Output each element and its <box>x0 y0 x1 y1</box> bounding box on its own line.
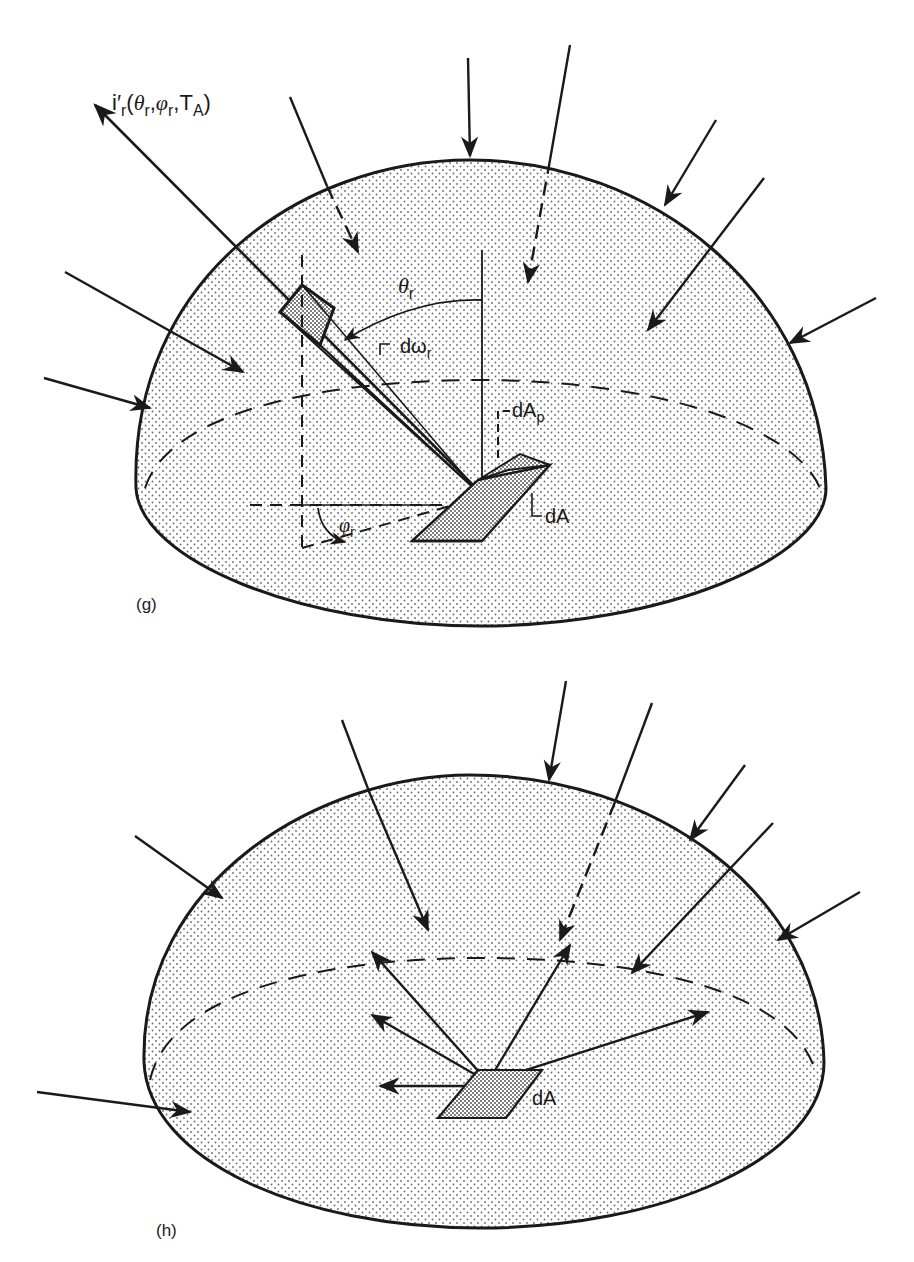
panel-label-h: (h) <box>156 1222 177 1239</box>
dA-label-g: dA <box>545 506 569 526</box>
intensity-label: i′r(θr,φr,TA) <box>112 92 211 118</box>
hemisphere-g <box>136 160 826 626</box>
figure-h-drawing <box>0 640 914 1262</box>
figure-h: dA (h) <box>0 640 914 1262</box>
dA-p-label: dAp <box>512 400 544 424</box>
figure-g: i′r(θr,φr,TA) θr dωr dAp dA φr (g) <box>0 0 914 640</box>
d-omega-r-label: dωr <box>400 336 432 360</box>
panel-label-g: (g) <box>136 596 157 613</box>
hemisphere-h <box>144 775 824 1228</box>
dA-label-h: dA <box>532 1088 556 1108</box>
phi-r-label: φr <box>339 515 355 539</box>
theta-r-label: θr <box>398 275 414 301</box>
